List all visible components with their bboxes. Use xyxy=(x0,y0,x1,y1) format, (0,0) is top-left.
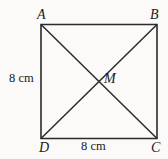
diagonals-group xyxy=(41,25,157,139)
vertex-label-d: D xyxy=(39,141,49,155)
vertex-label-c: C xyxy=(151,141,160,155)
vertex-label-a: A xyxy=(37,8,46,22)
dimension-label-left-side: 8 cm xyxy=(9,72,34,85)
vertex-label-b: B xyxy=(150,8,159,22)
dimension-label-bottom-side: 8 cm xyxy=(81,140,106,153)
geometry-figure: A B D C M 8 cm 8 cm xyxy=(0,0,168,159)
center-point-label-m: M xyxy=(104,72,116,86)
